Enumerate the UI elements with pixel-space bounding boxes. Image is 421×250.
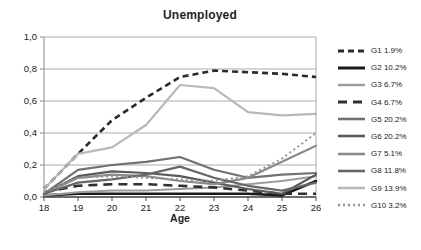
legend-item-G6: G6 20.2% xyxy=(337,131,407,142)
legend-label: G3 6.7% xyxy=(371,80,402,89)
legend-label: G2 10.2% xyxy=(371,63,407,72)
legend-marker-G4 xyxy=(337,97,366,107)
legend-marker-G1 xyxy=(337,46,366,56)
legend-marker-G5 xyxy=(337,114,366,124)
legend-marker-G9 xyxy=(337,183,366,193)
legend-marker-G2 xyxy=(337,63,366,73)
legend-item-G10: G10 3.2% xyxy=(337,200,407,211)
legend-item-G7: G7 5.1% xyxy=(337,148,407,159)
y-tick-label: 0,2 xyxy=(24,159,37,170)
legend-marker-G7 xyxy=(337,149,366,159)
series-line-G1 xyxy=(44,71,316,189)
legend-marker-G8 xyxy=(337,166,366,176)
legend-item-G1: G1 1.9% xyxy=(337,45,407,56)
y-tick-label: 0,8 xyxy=(24,63,37,74)
y-tick-label: 1,0 xyxy=(24,31,37,42)
legend-item-G4: G4 6.7% xyxy=(337,97,407,108)
y-tick-label: 0,4 xyxy=(24,127,37,138)
legend-label: G1 1.9% xyxy=(371,46,402,55)
legend-item-G2: G2 10.2% xyxy=(337,62,407,73)
legend-label: G7 5.1% xyxy=(371,149,402,158)
legend-item-G8: G8 11.8% xyxy=(337,165,407,176)
legend-item-G5: G5 20.2% xyxy=(337,114,407,125)
legend-label: G10 3.2% xyxy=(371,201,407,210)
series-line-G10 xyxy=(44,133,316,192)
legend-item-G3: G3 6.7% xyxy=(337,79,407,90)
legend-label: G6 20.2% xyxy=(371,132,407,141)
legend-marker-G6 xyxy=(337,131,366,141)
legend-label: G9 13.9% xyxy=(371,184,407,193)
legend-label: G8 11.8% xyxy=(371,166,406,175)
legend-label: G5 20.2% xyxy=(371,115,407,124)
legend: G1 1.9%G2 10.2%G3 6.7%G4 6.7%G5 20.2%G6 … xyxy=(337,45,407,211)
y-tick-label: 0,6 xyxy=(24,95,37,106)
x-axis-title: Age xyxy=(44,212,316,224)
legend-marker-G10 xyxy=(337,200,366,210)
legend-label: G4 6.7% xyxy=(371,98,402,107)
y-tick-label: 0,0 xyxy=(24,191,37,202)
legend-marker-G3 xyxy=(337,80,366,90)
chart-screenshot: Unemployed 0,00,20,40,60,81,018192021222… xyxy=(0,0,421,250)
legend-item-G9: G9 13.9% xyxy=(337,183,407,194)
